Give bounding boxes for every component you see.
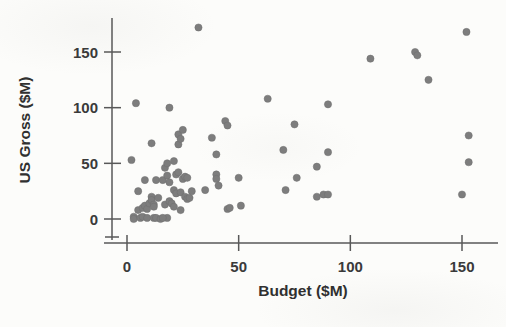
y-tick-label: 150 xyxy=(73,44,98,61)
data-point xyxy=(213,151,220,158)
data-point xyxy=(128,156,135,163)
data-point xyxy=(324,149,331,156)
scatter-chart-figure: 050100150 050100150 Budget ($M) US Gross… xyxy=(0,0,506,327)
data-point xyxy=(264,95,271,102)
data-point xyxy=(177,135,184,142)
data-point xyxy=(213,175,220,182)
data-point xyxy=(313,193,320,200)
data-point xyxy=(237,202,244,209)
data-point xyxy=(159,214,166,221)
data-point xyxy=(465,132,472,139)
y-tick-label: 0 xyxy=(90,211,98,228)
data-point xyxy=(313,163,320,170)
y-tick-label: 50 xyxy=(81,155,98,172)
y-tick-label: 100 xyxy=(73,99,98,116)
x-tick-label: 50 xyxy=(230,258,247,275)
data-point xyxy=(175,169,182,176)
y-axis-tick-labels: 050100150 xyxy=(73,44,98,228)
data-point xyxy=(195,24,202,31)
data-point xyxy=(202,186,209,193)
x-axis-title: Budget ($M) xyxy=(258,282,348,299)
data-point xyxy=(132,100,139,107)
x-tick-label: 0 xyxy=(123,258,131,275)
data-point xyxy=(179,126,186,133)
data-point xyxy=(166,104,173,111)
data-point xyxy=(215,182,222,189)
data-point xyxy=(226,204,233,211)
data-point xyxy=(141,176,148,183)
data-point xyxy=(463,28,470,35)
data-point xyxy=(166,179,173,186)
data-point xyxy=(144,214,151,221)
data-point xyxy=(324,191,331,198)
data-point xyxy=(282,186,289,193)
x-axis-tick-labels: 050100150 xyxy=(123,258,475,275)
data-point xyxy=(425,76,432,83)
data-point xyxy=(465,159,472,166)
data-point xyxy=(324,101,331,108)
data-point xyxy=(280,146,287,153)
data-point xyxy=(130,215,137,222)
data-point xyxy=(170,158,177,165)
data-point xyxy=(148,140,155,147)
data-point xyxy=(164,172,171,179)
y-axis-title: US Gross ($M) xyxy=(16,77,33,184)
scatter-points xyxy=(128,24,472,223)
data-point xyxy=(414,52,421,59)
data-point xyxy=(186,194,193,201)
data-point xyxy=(291,121,298,128)
data-point xyxy=(224,122,231,129)
data-point xyxy=(170,203,177,210)
data-point xyxy=(458,191,465,198)
data-point xyxy=(367,55,374,62)
plot-canvas: 050100150 050100150 Budget ($M) US Gross… xyxy=(0,0,506,327)
data-point xyxy=(152,176,159,183)
x-tick-label: 150 xyxy=(449,258,474,275)
data-point xyxy=(208,134,215,141)
data-point xyxy=(293,174,300,181)
x-tick-label: 100 xyxy=(338,258,363,275)
data-point xyxy=(155,194,162,201)
data-point xyxy=(150,203,157,210)
data-point xyxy=(188,188,195,195)
data-point xyxy=(164,160,171,167)
data-point xyxy=(235,174,242,181)
data-point xyxy=(135,188,142,195)
data-point xyxy=(184,174,191,181)
data-point xyxy=(177,206,184,213)
